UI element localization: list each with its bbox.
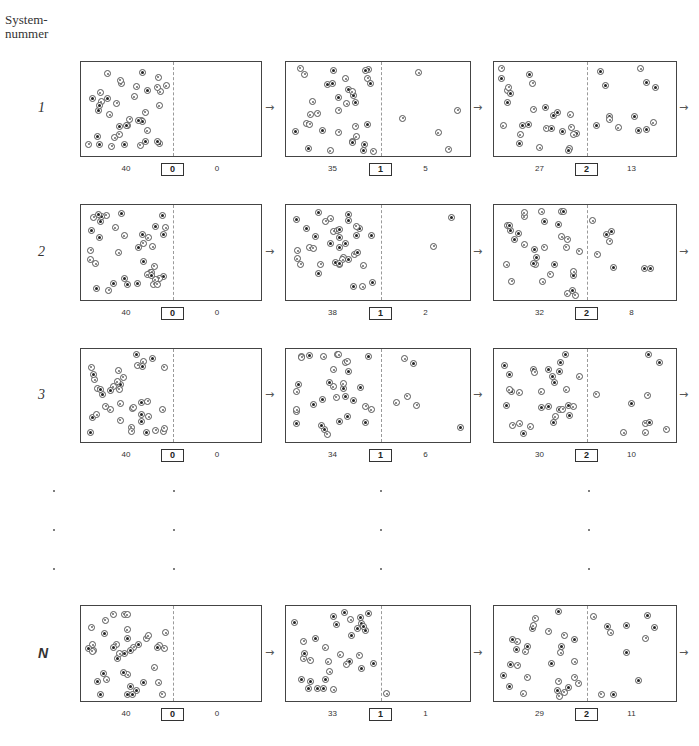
particle	[156, 102, 163, 109]
particle	[506, 222, 513, 229]
particle	[642, 429, 649, 436]
particle	[298, 354, 305, 361]
particle	[362, 419, 369, 426]
system-box	[285, 605, 471, 702]
particle	[159, 691, 166, 698]
transition-arrow-icon: →	[679, 245, 688, 258]
particle	[163, 82, 170, 89]
particle	[514, 662, 521, 669]
particle	[598, 691, 605, 698]
particle	[139, 69, 146, 76]
particle	[143, 429, 150, 436]
particle	[124, 611, 131, 618]
particle	[104, 70, 111, 77]
particle	[644, 612, 651, 619]
particle	[110, 280, 117, 287]
particle	[117, 400, 124, 407]
particle	[557, 649, 564, 656]
particle	[137, 142, 144, 149]
partition-line	[381, 606, 382, 701]
particle	[322, 644, 329, 651]
particle	[527, 423, 534, 430]
particle	[102, 617, 109, 624]
particle	[399, 115, 406, 122]
particle	[538, 388, 545, 395]
particle	[341, 609, 348, 616]
particle	[628, 400, 635, 407]
particle	[623, 649, 630, 656]
particle	[513, 646, 520, 653]
ellipsis-dot	[53, 490, 55, 492]
particle	[303, 225, 310, 232]
particle	[500, 672, 507, 679]
particle	[145, 234, 152, 241]
particle	[350, 283, 357, 290]
particle	[162, 629, 169, 636]
particle	[123, 122, 130, 129]
particle	[149, 355, 156, 362]
particle	[94, 133, 101, 140]
particle	[620, 429, 627, 436]
particle	[509, 422, 516, 429]
particle	[301, 650, 308, 657]
particle	[508, 278, 515, 285]
particle	[145, 413, 152, 420]
particle	[88, 227, 95, 234]
particle	[340, 380, 347, 387]
particle	[96, 102, 103, 109]
partition-line	[587, 62, 588, 156]
system-number-label: 1	[38, 100, 45, 116]
system-box	[493, 605, 677, 702]
left-count: 35	[318, 164, 348, 173]
particle	[135, 244, 142, 251]
particle	[531, 246, 538, 253]
particle	[101, 630, 108, 637]
right-count: 13	[617, 164, 647, 173]
particle	[333, 394, 340, 401]
system-number-label: 2	[38, 244, 45, 260]
particle	[541, 244, 548, 251]
left-count: 40	[111, 308, 141, 317]
particle	[117, 417, 124, 424]
particle	[120, 374, 127, 381]
particle	[295, 381, 302, 388]
particle	[637, 65, 644, 72]
transition-arrow-icon: →	[265, 101, 274, 114]
particle	[356, 652, 363, 659]
particle	[97, 89, 104, 96]
ellipsis-dot	[173, 490, 175, 492]
particle	[151, 263, 158, 270]
particle	[593, 391, 600, 398]
particle	[565, 147, 572, 154]
particle	[301, 71, 308, 78]
particle	[315, 209, 322, 216]
particle	[350, 397, 357, 404]
particle	[410, 360, 417, 367]
particle	[320, 353, 327, 360]
step-number-badge: 2	[575, 307, 598, 320]
particle	[102, 403, 109, 410]
particle	[322, 676, 329, 683]
particle	[326, 668, 333, 675]
transition-arrow-icon: →	[473, 646, 482, 659]
particle	[342, 240, 349, 247]
particle	[310, 401, 317, 408]
particle	[142, 109, 149, 116]
particle	[354, 249, 361, 256]
particle	[336, 418, 343, 425]
particle	[306, 121, 313, 128]
ellipsis-dot	[588, 568, 590, 570]
right-count: 11	[617, 709, 647, 718]
right-count: 2	[411, 308, 441, 317]
step-number-badge: 2	[575, 449, 598, 462]
partition-line	[173, 62, 174, 156]
particle	[312, 635, 319, 642]
particle	[516, 420, 523, 427]
particle	[314, 110, 321, 117]
left-count: 33	[318, 709, 348, 718]
particle	[561, 632, 568, 639]
particle	[85, 141, 92, 148]
particle	[154, 644, 161, 651]
particle	[343, 100, 350, 107]
particle	[498, 75, 505, 82]
